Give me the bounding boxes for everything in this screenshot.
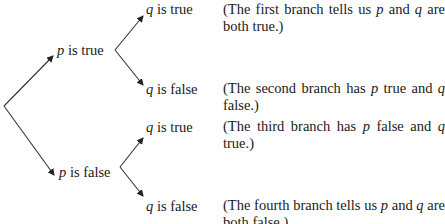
note-text: (The third branch has xyxy=(223,118,363,134)
edge-root-to-p-true xyxy=(4,56,53,106)
note-text: (The first branch tells us xyxy=(223,1,376,17)
node-text: is false xyxy=(153,198,197,214)
node-text: is true xyxy=(64,42,103,58)
node-text: is true xyxy=(153,1,192,17)
node-q-false-2: q is false xyxy=(146,198,198,214)
note-text: (The second branch has xyxy=(223,80,371,96)
note-text: true.) xyxy=(223,135,254,151)
node-text: is false xyxy=(66,164,110,180)
node-p-false: p is false xyxy=(59,164,111,180)
note-text: false and xyxy=(370,118,438,134)
note-branch-1: (The first branch tells us p and q are b… xyxy=(223,1,445,35)
note-branch-2: (The second branch has p true and q fals… xyxy=(223,80,445,114)
edge-p-false-to-q-false xyxy=(120,167,143,196)
node-p-true: p is true xyxy=(57,42,104,58)
edge-root-to-p-false xyxy=(4,106,54,175)
note-text: false.) xyxy=(223,97,259,113)
var-p: p xyxy=(363,118,370,134)
edge-p-true-to-q-false xyxy=(115,50,143,85)
note-branch-4: (The fourth branch tells us p and q are … xyxy=(223,197,445,224)
node-text: is false xyxy=(153,81,197,97)
note-branch-3: (The third branch has p false and q true… xyxy=(223,118,445,152)
note-text: and xyxy=(384,1,415,17)
var-q: q xyxy=(416,197,423,213)
node-q-false-1: q is false xyxy=(146,81,198,97)
note-text: true and xyxy=(378,80,438,96)
note-text: and xyxy=(388,197,416,213)
var-q: q xyxy=(415,1,422,17)
var-q: q xyxy=(438,80,445,96)
edge-p-false-to-q-true xyxy=(120,138,143,167)
var-p: p xyxy=(376,1,383,17)
var-p: p xyxy=(381,197,388,213)
edge-p-true-to-q-true xyxy=(115,16,143,50)
note-text: (The fourth branch tells us xyxy=(223,197,381,213)
node-text: is true xyxy=(153,119,192,135)
node-q-true-1: q is true xyxy=(146,1,193,17)
node-q-true-2: q is true xyxy=(146,119,193,135)
var-q: q xyxy=(438,118,445,134)
